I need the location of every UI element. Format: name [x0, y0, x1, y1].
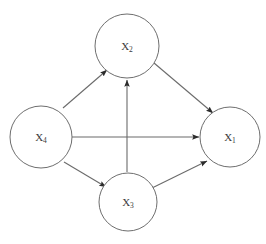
edge-x2-to-x1 [154, 63, 213, 113]
causal-graph-diagram: X2 X4 X1 X3 [0, 0, 266, 244]
node-x4[interactable]: X4 [10, 106, 72, 168]
node-x2[interactable]: X2 [95, 14, 159, 78]
edge-x3-to-x1 [152, 161, 207, 188]
node-x3[interactable]: X3 [99, 173, 157, 231]
edge-x4-to-x2 [63, 70, 107, 108]
edge-layer [63, 63, 213, 188]
node-layer: X2 X4 X1 X3 [10, 14, 260, 231]
node-x1[interactable]: X1 [200, 107, 260, 167]
edge-x4-to-x3 [64, 162, 106, 187]
